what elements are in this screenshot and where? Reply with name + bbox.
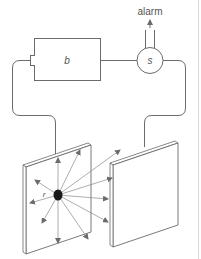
right-plate — [110, 141, 178, 247]
sensor-label: s — [148, 55, 153, 66]
diagram-canvas: alarm b s — [0, 0, 201, 259]
radius-label: r — [43, 190, 46, 199]
alarm-label: alarm — [137, 6, 162, 17]
circuit-diagram: alarm b s — [0, 0, 201, 259]
charge-dot — [54, 190, 63, 201]
battery-label: b — [64, 55, 70, 66]
